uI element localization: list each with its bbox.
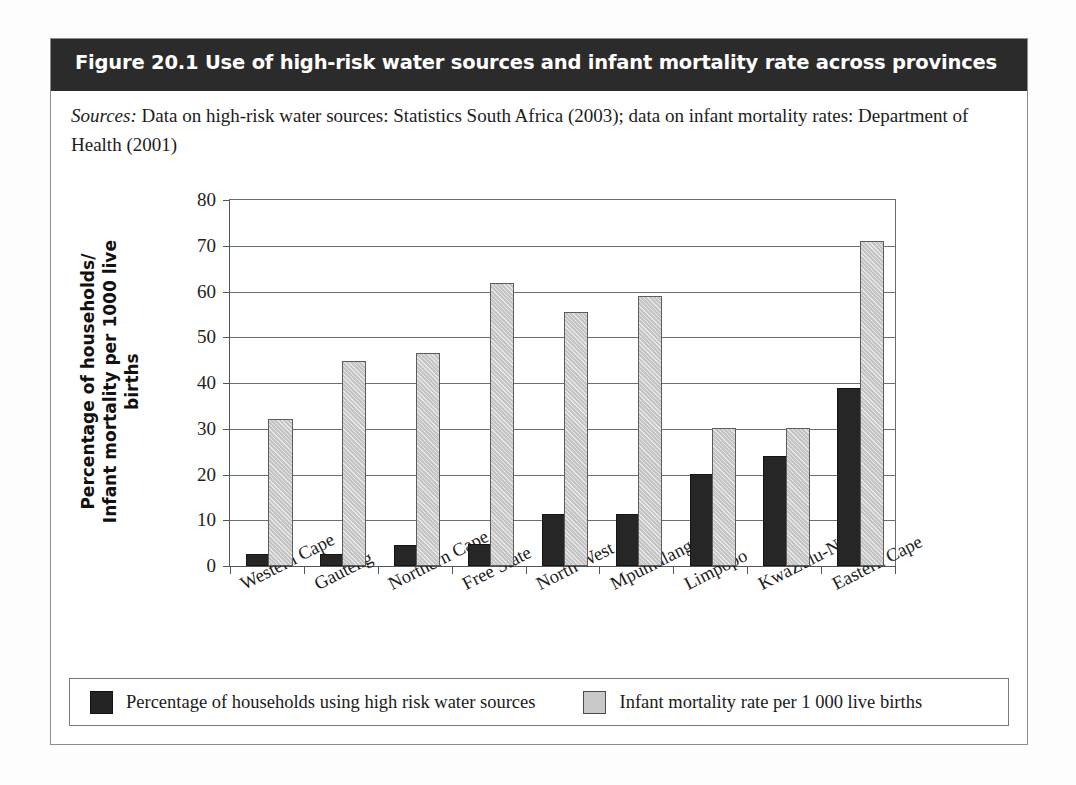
x-axis-tick-mark <box>378 566 379 574</box>
x-axis-tick-mark <box>452 566 453 574</box>
sources-label: Sources: <box>71 105 137 126</box>
bar-infant-mortality <box>416 353 440 566</box>
legend-label-infant-mortality: Infant mortality rate per 1 000 live bir… <box>619 692 922 713</box>
bar-infant-mortality <box>638 296 662 566</box>
y-axis-title: Percentage of households/ Infant mortali… <box>78 232 143 532</box>
bar-households <box>690 474 714 566</box>
bar-group <box>599 200 673 566</box>
y-axis-tick-label: 20 <box>156 464 216 486</box>
bar-group <box>304 200 378 566</box>
bar-households <box>468 544 492 566</box>
bar-group <box>452 200 526 566</box>
y-axis-tick-label: 40 <box>156 372 216 394</box>
figure-title: Figure 20.1 Use of high-risk water sourc… <box>75 51 997 74</box>
bar-infant-mortality <box>490 283 514 566</box>
legend-label-households: Percentage of households using high risk… <box>126 692 535 713</box>
y-axis-tick-mark <box>223 246 230 247</box>
bar-group <box>673 200 747 566</box>
x-axis-tick-mark <box>895 566 896 574</box>
y-axis-tick-mark <box>223 475 230 476</box>
y-axis-tick-mark <box>223 566 230 567</box>
bar-households <box>246 554 270 566</box>
y-axis-tick-mark <box>223 520 230 521</box>
legend-item-households: Percentage of households using high risk… <box>90 691 535 714</box>
y-axis-tick-mark <box>223 337 230 338</box>
bar-households <box>837 388 861 566</box>
bar-infant-mortality <box>342 361 366 566</box>
figure-header-band: Figure 20.1 Use of high-risk water sourc… <box>51 39 1027 91</box>
bar-infant-mortality <box>786 428 810 566</box>
x-axis-tick-mark <box>673 566 674 574</box>
bar-infant-mortality <box>564 312 588 566</box>
figure-sources: Sources: Data on high-risk water sources… <box>71 101 1011 160</box>
bar-group <box>526 200 600 566</box>
y-axis-tick-mark <box>223 383 230 384</box>
bar-group <box>378 200 452 566</box>
bar-households <box>320 554 344 566</box>
y-axis-tick-mark <box>223 200 230 201</box>
bar-households <box>763 456 787 566</box>
light-swatch-icon <box>583 691 606 714</box>
bar-households <box>394 545 418 566</box>
figure-frame: Figure 20.1 Use of high-risk water sourc… <box>50 38 1028 745</box>
bar-infant-mortality <box>860 241 884 566</box>
bar-group <box>821 200 895 566</box>
bar-infant-mortality <box>712 428 736 566</box>
chart-area: Percentage of households/ Infant mortali… <box>51 169 1029 689</box>
y-axis-tick-label: 10 <box>156 509 216 531</box>
bar-group <box>747 200 821 566</box>
x-axis-tick-mark <box>304 566 305 574</box>
legend-item-infant-mortality: Infant mortality rate per 1 000 live bir… <box>583 691 922 714</box>
bar-households <box>616 514 640 566</box>
y-axis-tick-mark <box>223 292 230 293</box>
y-axis-tick-label: 70 <box>156 235 216 257</box>
y-axis-tick-label: 30 <box>156 418 216 440</box>
y-axis-tick-label: 0 <box>156 555 216 577</box>
y-axis-tick-mark <box>223 429 230 430</box>
dark-swatch-icon <box>90 691 113 714</box>
y-axis-tick-label: 80 <box>156 189 216 211</box>
chart-legend: Percentage of households using high risk… <box>69 678 1009 726</box>
y-axis-tick-label: 50 <box>156 326 216 348</box>
x-axis-tick-mark <box>230 566 231 574</box>
bar-infant-mortality <box>268 419 292 566</box>
bar-group <box>230 200 304 566</box>
x-axis-tick-mark <box>599 566 600 574</box>
x-axis-tick-mark <box>821 566 822 574</box>
sources-text: Data on high-risk water sources: Statist… <box>71 105 968 155</box>
y-axis-tick-label: 60 <box>156 281 216 303</box>
x-axis-tick-mark <box>526 566 527 574</box>
bar-households <box>542 514 566 566</box>
x-axis-tick-mark <box>747 566 748 574</box>
plot-area: 01020304050607080Western CapeGautengNort… <box>229 199 896 567</box>
